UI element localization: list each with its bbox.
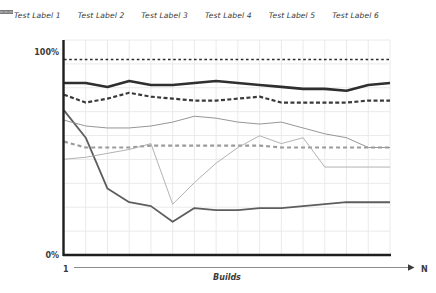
series-line-4 [64, 116, 390, 147]
chart-container: Test Label 1 Test Label 2 Test Label 3 T… [0, 0, 436, 293]
x-axis-caption: Builds [213, 273, 241, 282]
series-line-3 [64, 110, 390, 221]
series-line-1 [64, 81, 390, 91]
series-line-5 [64, 142, 390, 148]
x-axis-start-label: 1 [63, 265, 69, 274]
x-axis-arrow-head [408, 264, 415, 270]
chart-plot: 100% 0% 1 N Builds [0, 0, 436, 293]
chart-series-layer [64, 60, 390, 222]
series-line-2 [64, 93, 390, 103]
y-tick-label-100: 100% [34, 48, 59, 57]
x-axis-end-label: N [421, 265, 428, 274]
y-tick-label-0: 0% [45, 251, 59, 260]
